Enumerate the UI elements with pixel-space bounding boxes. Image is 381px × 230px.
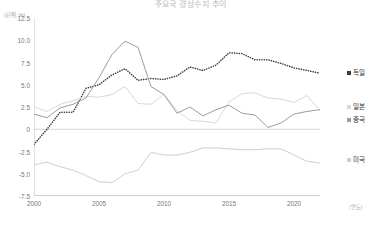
x-axis-tick-label: 2000 bbox=[27, 200, 41, 207]
legend-label: 중국 bbox=[353, 117, 365, 124]
plot-area bbox=[34, 18, 320, 196]
legend-swatch-icon bbox=[347, 105, 351, 109]
legend-item-독일[interactable]: 독일 bbox=[347, 70, 365, 77]
chart-title: 주요국 경상수지 추이 bbox=[0, 0, 381, 9]
legend-item-미국[interactable]: 미국 bbox=[347, 157, 365, 164]
series-line-중국 bbox=[34, 41, 320, 127]
chart-container: 주요국 경상수지 추이 (단위: %) (연도) 12.510.07.55.02… bbox=[0, 0, 381, 230]
x-axis-tick-label: 2005 bbox=[92, 200, 106, 207]
legend-item-일본[interactable]: 일본 bbox=[347, 104, 365, 111]
x-axis-tick-label: 2020 bbox=[287, 200, 301, 207]
legend-swatch-icon bbox=[347, 118, 351, 122]
y-axis-tick-label: 5.0 bbox=[4, 81, 30, 88]
y-axis-tick-label: -5.0 bbox=[4, 170, 30, 177]
y-axis-tick-label: 12.5 bbox=[4, 15, 30, 22]
x-axis-tick-label: 2015 bbox=[222, 200, 236, 207]
y-axis-tick-label: -7.5 bbox=[4, 193, 30, 200]
y-axis-tick-label: -2.5 bbox=[4, 148, 30, 155]
legend-label: 미국 bbox=[353, 157, 365, 164]
legend-swatch-icon bbox=[347, 158, 351, 162]
series-line-미국 bbox=[34, 148, 320, 183]
legend-label: 일본 bbox=[353, 104, 365, 111]
x-axis-unit-label: (연도) bbox=[349, 203, 363, 211]
legend-label: 독일 bbox=[353, 70, 365, 77]
y-axis-tick-label: 2.5 bbox=[4, 104, 30, 111]
series-lines bbox=[34, 18, 320, 196]
y-axis-tick-label: 7.5 bbox=[4, 59, 30, 66]
legend-item-중국[interactable]: 중국 bbox=[347, 117, 365, 124]
y-axis-tick-label: 10.0 bbox=[4, 37, 30, 44]
legend-swatch-icon bbox=[347, 71, 351, 75]
y-axis-tick-label: 0 bbox=[4, 126, 30, 133]
x-axis-tick-label: 2010 bbox=[157, 200, 171, 207]
